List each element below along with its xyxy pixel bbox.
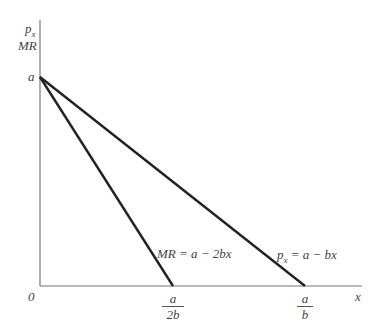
demand-curve-label: px = a − bx [277,248,337,265]
mr-curve-label: MR = a − 2bx [157,247,232,260]
y-intercept-label: a [28,70,35,83]
mr-curve [40,77,173,286]
diagram-canvas [0,0,383,329]
demand-x-intercept-label: a b [297,292,313,321]
x-axis-label: x [355,290,361,303]
mr-x-intercept-label: a 2b [162,292,184,321]
origin-label: 0 [28,290,35,303]
y-axis-label-price: px [25,22,36,39]
y-axis-label-mr: MR [18,39,37,52]
